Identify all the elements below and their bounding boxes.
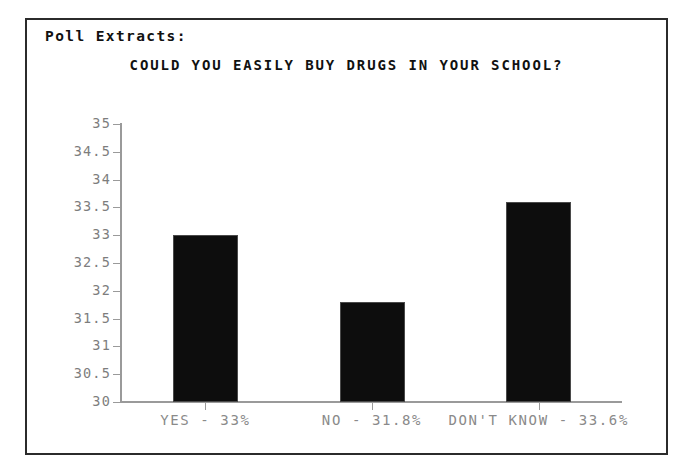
bar: [340, 302, 405, 402]
y-axis-tick: [113, 180, 121, 181]
y-axis-tick-label: 33: [51, 228, 111, 242]
x-axis-tick-label: YES - 33%: [160, 412, 250, 428]
bar: [173, 235, 238, 402]
y-axis-tick: [113, 263, 121, 264]
bar: [506, 202, 571, 402]
y-axis-tick-label: 31: [51, 339, 111, 353]
y-axis-tick-label: 34.5: [51, 145, 111, 159]
x-axis-tick-label: DON'T KNOW - 33.6%: [448, 412, 629, 428]
y-axis-tick-label: 32: [51, 284, 111, 298]
y-axis-tick: [113, 402, 121, 403]
y-axis-tick: [113, 207, 121, 208]
x-axis-tick: [372, 403, 373, 410]
x-axis-tick: [205, 403, 206, 410]
y-axis-tick-label: 32.5: [51, 256, 111, 270]
poll-extract-frame: Poll Extracts: COULD YOU EASILY BUY DRUG…: [25, 18, 668, 455]
y-axis-tick-label: 34: [51, 173, 111, 187]
y-axis-tick-label: 31.5: [51, 312, 111, 326]
y-axis-tick: [113, 152, 121, 153]
y-axis-tick: [113, 319, 121, 320]
y-axis-tick-label: 30.5: [51, 367, 111, 381]
y-axis-tick: [113, 235, 121, 236]
y-axis-tick: [113, 346, 121, 347]
y-axis-tick: [113, 124, 121, 125]
y-axis-tick-label: 35: [51, 117, 111, 131]
y-axis-tick-label: 33.5: [51, 200, 111, 214]
y-axis-tick: [113, 291, 121, 292]
y-axis-tick-label: 30: [51, 395, 111, 409]
x-axis-tick: [539, 403, 540, 410]
y-axis-tick: [113, 374, 121, 375]
bar-chart-plot-area: 3534.53433.53332.53231.53130.530 YES - 3…: [27, 20, 670, 457]
x-axis-tick-label: NO - 31.8%: [322, 412, 422, 428]
